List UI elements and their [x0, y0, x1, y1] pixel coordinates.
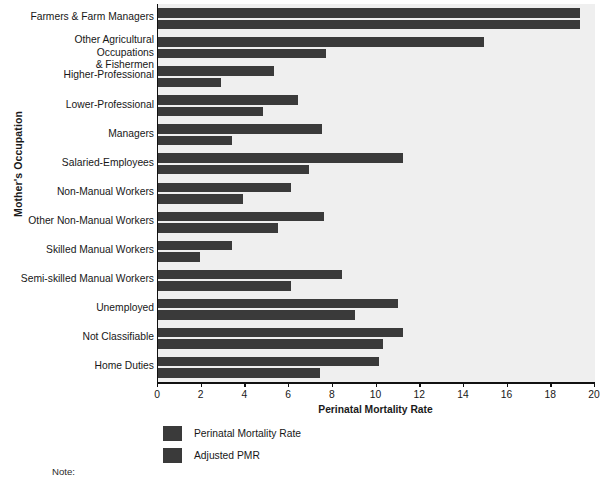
legend-label: Adjusted PMR [194, 450, 260, 461]
category-label: Other Agricultural Occupations & Fisherm… [18, 34, 154, 71]
x-axis-tick-label: 4 [224, 389, 264, 400]
category-label: Managers [18, 128, 154, 140]
bar [158, 299, 398, 309]
bar [158, 165, 309, 175]
x-axis-tick-label: 16 [487, 389, 527, 400]
bar [158, 357, 379, 367]
category-label: Salaried-Employees [18, 157, 154, 169]
bar [158, 368, 320, 378]
category-label: Higher-Professional [18, 69, 154, 81]
x-axis-tick [157, 382, 158, 387]
bar [158, 183, 291, 193]
bar [158, 212, 324, 222]
category-label: Other Non-Manual Workers [18, 215, 154, 227]
x-axis-tick [550, 382, 551, 387]
category-label-group: Farmers & Farm ManagersOther Agricultura… [18, 4, 154, 382]
x-axis-tick [507, 382, 508, 387]
bar [158, 107, 263, 117]
category-label: Semi-skilled Manual Workers [18, 273, 154, 285]
x-axis-tick-label: 8 [312, 389, 352, 400]
bar [158, 124, 322, 134]
bar [158, 153, 403, 163]
legend-swatch [163, 448, 182, 463]
x-axis-tick-label: 12 [399, 389, 439, 400]
bar [158, 8, 580, 18]
category-label: Skilled Manual Workers [18, 244, 154, 256]
category-label: Unemployed [18, 302, 154, 314]
x-axis-tick-label: 20 [574, 389, 610, 400]
x-axis-title: Perinatal Mortality Rate [157, 404, 594, 415]
plot-area [157, 4, 595, 382]
legend-label: Perinatal Mortality Rate [194, 428, 301, 439]
chart-legend: Perinatal Mortality RateAdjusted PMR [163, 424, 301, 468]
bar [158, 281, 291, 291]
legend-item: Perinatal Mortality Rate [163, 424, 301, 443]
bar [158, 241, 232, 251]
perinatal-mortality-bar-chart: Mother's Occupation Farmers & Farm Manag… [0, 0, 610, 487]
bar [158, 49, 326, 59]
legend-item: Adjusted PMR [163, 446, 301, 465]
bar [158, 66, 274, 76]
bar [158, 270, 342, 280]
category-label: Lower-Professional [18, 99, 154, 111]
x-axis-tick [201, 382, 202, 387]
legend-swatch [163, 426, 182, 441]
x-axis-tick-label: 0 [137, 389, 177, 400]
bar [158, 310, 355, 320]
x-axis-tick [463, 382, 464, 387]
category-label: Not Classifiable [18, 331, 154, 343]
x-axis-tick [244, 382, 245, 387]
x-axis-tick [288, 382, 289, 387]
bar [158, 95, 298, 105]
x-axis-tick [419, 382, 420, 387]
bar [158, 37, 484, 47]
bar [158, 339, 383, 349]
x-axis-tick-label: 2 [181, 389, 221, 400]
x-axis-tick [376, 382, 377, 387]
bar [158, 223, 278, 233]
x-axis-tick-label: 18 [530, 389, 570, 400]
x-axis-tick [594, 382, 595, 387]
category-label: Non-Manual Workers [18, 186, 154, 198]
bar [158, 20, 580, 30]
bar [158, 328, 403, 338]
x-axis-tick [332, 382, 333, 387]
category-label: Home Duties [18, 360, 154, 372]
x-axis-tick-label: 6 [268, 389, 308, 400]
x-axis-tick-label: 10 [356, 389, 396, 400]
bar [158, 194, 243, 204]
note-label: Note: [52, 466, 75, 477]
x-axis-tick-label: 14 [443, 389, 483, 400]
bar [158, 252, 200, 262]
category-label: Farmers & Farm Managers [18, 11, 154, 23]
bar [158, 136, 232, 146]
bar [158, 78, 221, 88]
